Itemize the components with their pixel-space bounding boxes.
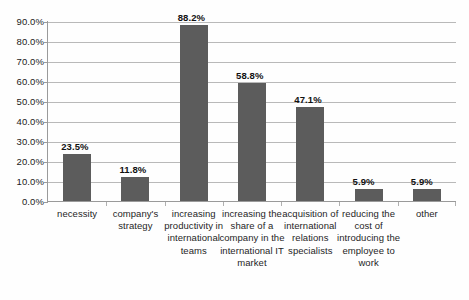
bar xyxy=(296,107,324,201)
x-axis-tick-mark xyxy=(106,202,107,206)
y-axis-tick-mark xyxy=(44,202,48,203)
y-axis-tick-label: 30.0% xyxy=(0,137,44,147)
bar xyxy=(121,177,149,201)
x-axis-category-label: other xyxy=(393,208,461,220)
y-axis-tick-labels: 90.0%80.0%70.0%60.0%50.0%40.0%30.0%20.0%… xyxy=(0,0,44,300)
bar xyxy=(238,83,266,201)
x-axis-tick-mark xyxy=(223,202,224,206)
y-axis-tick-label: 90.0% xyxy=(0,17,44,27)
gridline xyxy=(48,42,456,43)
bar xyxy=(180,25,208,201)
plot-area: 23.5%11.8%88.2%58.8%47.1%5.9%5.9% xyxy=(48,22,456,202)
bar-value-label: 5.9% xyxy=(353,177,375,187)
bar xyxy=(63,154,91,201)
x-axis-tick-mark xyxy=(281,202,282,206)
y-axis-tick-mark xyxy=(44,42,48,43)
bar-value-label: 88.2% xyxy=(178,13,205,23)
y-axis-tick-label: 10.0% xyxy=(0,177,44,187)
y-axis-tick-label: 40.0% xyxy=(0,117,44,127)
x-axis-tick-mark xyxy=(398,202,399,206)
y-axis-tick-label: 80.0% xyxy=(0,37,44,47)
bar-value-label: 23.5% xyxy=(61,142,88,152)
y-axis-tick-mark xyxy=(44,162,48,163)
y-axis-tick-label: 70.0% xyxy=(0,57,44,67)
bar-value-label: 47.1% xyxy=(294,95,321,105)
y-axis-tick-label: 50.0% xyxy=(0,97,44,107)
y-axis-tick-mark xyxy=(44,182,48,183)
y-axis-tick-mark xyxy=(44,62,48,63)
x-axis-category-labels: necessitycompany's strategyincreasing pr… xyxy=(48,208,456,296)
bar xyxy=(355,189,383,201)
bar-value-label: 5.9% xyxy=(411,177,433,187)
y-axis-tick-mark xyxy=(44,82,48,83)
gridline xyxy=(48,62,456,63)
y-axis-tick-label: 0.0% xyxy=(0,197,44,207)
y-axis-line xyxy=(47,21,48,202)
y-axis-tick-label: 60.0% xyxy=(0,77,44,87)
x-axis-tick-mark xyxy=(339,202,340,206)
gridline xyxy=(48,22,456,23)
bar xyxy=(413,189,441,201)
y-axis-tick-mark xyxy=(44,142,48,143)
bar-chart-figure: 90.0%80.0%70.0%60.0%50.0%40.0%30.0%20.0%… xyxy=(0,0,469,300)
x-axis-tick-mark xyxy=(455,202,456,206)
y-axis-tick-mark xyxy=(44,122,48,123)
y-axis-tick-mark xyxy=(44,22,48,23)
bar-value-label: 58.8% xyxy=(236,71,263,81)
x-axis-line xyxy=(47,201,456,202)
bar-value-label: 11.8% xyxy=(119,165,146,175)
y-axis-tick-label: 20.0% xyxy=(0,157,44,167)
x-axis-tick-mark xyxy=(165,202,166,206)
y-axis-tick-mark xyxy=(44,102,48,103)
